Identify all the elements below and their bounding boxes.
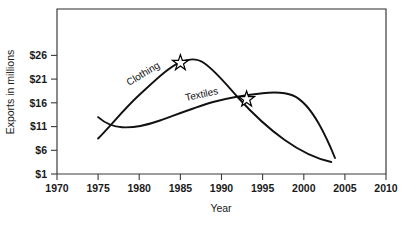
x-tick-label-1985: 1985	[169, 182, 193, 194]
x-tick-label-2000: 2000	[292, 182, 316, 194]
y-axis-ticks	[51, 55, 57, 174]
y-tick-label-26: $26	[29, 49, 47, 61]
chart-canvas: $1 $6 $11 $16 $21 $26 1970 1975 1980 198…	[0, 0, 412, 225]
x-axis-tick-labels: 1970 1975 1980 1985 1990 1995 2000 2005 …	[45, 182, 398, 194]
x-tick-label-1975: 1975	[86, 182, 110, 194]
x-tick-label-2010: 2010	[374, 182, 398, 194]
y-axis-tick-labels: $1 $6 $11 $16 $21 $26	[29, 49, 47, 180]
y-tick-label-6: $6	[35, 144, 47, 156]
textiles-star-marker	[239, 91, 255, 106]
x-tick-label-1970: 1970	[45, 182, 69, 194]
clothing-star-marker	[173, 55, 189, 70]
x-tick-label-2005: 2005	[333, 182, 357, 194]
exports-line-chart: $1 $6 $11 $16 $21 $26 1970 1975 1980 198…	[0, 0, 412, 225]
clothing-curve-label: Clothing	[124, 59, 161, 87]
series-textiles	[98, 92, 335, 158]
y-tick-label-11: $11	[30, 120, 47, 132]
x-axis-ticks	[57, 174, 386, 180]
x-tick-label-1990: 1990	[210, 182, 234, 194]
y-axis-title: Exports in millions	[4, 50, 16, 135]
y-tick-label-16: $16	[29, 97, 47, 109]
textiles-curve	[98, 92, 335, 158]
plot-frame	[57, 9, 386, 174]
y-tick-label-21: $21	[29, 73, 47, 85]
x-tick-label-1980: 1980	[128, 182, 152, 194]
x-axis-title: Year	[210, 202, 232, 214]
textiles-curve-label: Textiles	[184, 85, 219, 103]
x-tick-label-1995: 1995	[251, 182, 275, 194]
y-tick-label-1: $1	[35, 168, 47, 180]
